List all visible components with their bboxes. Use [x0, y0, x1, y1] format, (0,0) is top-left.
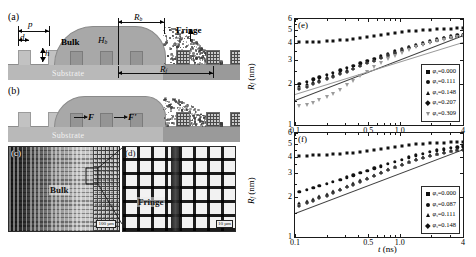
- fringe-strip-c: [93, 147, 119, 231]
- particle: [182, 43, 184, 45]
- data-point: [393, 54, 397, 58]
- x-tick: [400, 122, 401, 125]
- particle: [220, 60, 222, 62]
- data-point: [345, 83, 349, 87]
- particle: [193, 39, 195, 41]
- y-tick-minor: [295, 150, 297, 151]
- pillar-textured-0: [176, 112, 190, 127]
- x-tick-minor-top: [358, 19, 359, 21]
- y-tick: [295, 84, 298, 85]
- particle: [195, 49, 197, 51]
- pillar-under-drop-1: [100, 51, 113, 65]
- data-point: [331, 153, 334, 156]
- force-arrow-0: F: [74, 112, 94, 122]
- y-tick-label: 5: [288, 26, 292, 34]
- pillar-under-drop-2: [130, 51, 143, 65]
- dim-label-Hb: Hb: [98, 36, 107, 46]
- data-point: [338, 72, 342, 76]
- x-tick-minor-top: [327, 19, 328, 21]
- x-tick-minor: [450, 123, 451, 125]
- data-point: [394, 32, 397, 35]
- legend-marker-diamond: [425, 224, 431, 228]
- particle: [181, 37, 183, 39]
- data-point: [428, 142, 431, 145]
- panel-tag-e: (e): [298, 20, 308, 30]
- data-point: [352, 151, 355, 154]
- particle: [199, 53, 201, 55]
- data-point: [298, 41, 301, 44]
- particle: [180, 47, 181, 48]
- x-axis-label: t (ns): [378, 244, 397, 254]
- particle: [196, 123, 197, 124]
- bulk-label-a: Bulk: [61, 38, 80, 47]
- particle: [172, 31, 174, 33]
- x-tick-minor: [450, 235, 451, 237]
- legend-label-0: φs=0.000: [433, 67, 456, 78]
- particle: [173, 107, 175, 109]
- chart-panel-e: (e) 1234560.10.51.04 φs=0.000φs=0.111φs=…: [294, 18, 464, 126]
- data-point: [449, 141, 452, 144]
- x-tick: [368, 122, 369, 125]
- data-point: [366, 169, 369, 172]
- particle: [173, 43, 176, 46]
- y-tick-right: [460, 30, 463, 31]
- particle: [200, 60, 201, 61]
- x-tick-minor: [431, 123, 432, 125]
- force-label-0: F: [88, 112, 94, 122]
- arrow-left: [118, 71, 122, 75]
- legend-label-3: φs=0.148: [433, 221, 456, 232]
- data-point: [339, 152, 342, 155]
- pillar-textured-2: [230, 50, 240, 65]
- fringe-region-label: Fringe: [137, 197, 165, 207]
- data-point: [400, 158, 403, 161]
- particle: [165, 103, 166, 104]
- x-tick-label: 4: [461, 239, 465, 247]
- dim-label-pitch: p: [28, 20, 33, 29]
- data-point: [331, 92, 335, 96]
- particle: [175, 37, 177, 39]
- data-point: [339, 39, 342, 42]
- panel-a-schematic: Substrate pdhRbHbRf (a) Bulk Fringe: [8, 12, 240, 80]
- particle: [180, 104, 181, 105]
- data-point: [401, 31, 404, 34]
- particle: [166, 124, 169, 127]
- panel-tag-b: (b): [8, 86, 20, 96]
- data-point: [414, 158, 418, 162]
- substrate-label-a: Substrate: [52, 69, 84, 78]
- dim-label-height: h: [45, 49, 50, 58]
- data-point: [317, 196, 321, 200]
- data-point: [359, 37, 362, 40]
- data-point: [428, 28, 431, 31]
- data-point: [338, 88, 342, 92]
- pillar-left-0: [18, 50, 31, 65]
- ext-line-Hb: [118, 26, 119, 65]
- particle: [203, 115, 204, 116]
- particle: [170, 58, 172, 60]
- x-tick-minor: [345, 123, 346, 125]
- data-point: [421, 43, 425, 47]
- panel-tag-f: (f): [298, 134, 307, 144]
- data-point: [305, 41, 308, 44]
- y-tick-right: [460, 60, 463, 61]
- legend-row-0: φs=0.000: [425, 189, 456, 200]
- data-point: [435, 39, 439, 43]
- data-point: [379, 61, 383, 65]
- x-tick-minor-top: [450, 133, 451, 135]
- data-point: [421, 29, 424, 32]
- y-tick-minor: [295, 184, 297, 185]
- data-point: [428, 41, 432, 45]
- particle: [202, 120, 204, 122]
- dim-line-height: [42, 48, 43, 62]
- x-tick-minor: [384, 235, 385, 237]
- x-tick-minor-top: [450, 19, 451, 21]
- legend-label-2: φs=0.111: [433, 210, 456, 221]
- data-point: [331, 180, 334, 183]
- y-tick-minor: [295, 164, 297, 165]
- particle: [164, 44, 166, 46]
- data-point: [358, 74, 362, 78]
- x-tick-minor-top: [345, 19, 346, 21]
- y-tick-right: [460, 84, 463, 85]
- figure-root: Substrate pdhRbHbRf (a) Bulk Fringe Subs…: [0, 0, 476, 257]
- data-point: [366, 149, 369, 152]
- particle: [202, 125, 203, 126]
